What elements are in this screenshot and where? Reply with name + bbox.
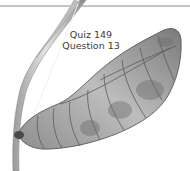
cremaster	[14, 131, 24, 139]
quiz-number: Quiz 149	[58, 29, 124, 40]
illustration	[0, 0, 190, 171]
question-number: Question 13	[58, 40, 124, 51]
quiz-caption: Quiz 149 Question 13	[58, 29, 124, 51]
